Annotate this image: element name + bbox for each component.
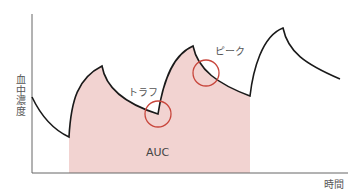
auc-label: AUC [146,147,169,158]
y-axis-label: 血中濃度 [15,75,27,117]
x-axis-label: 時間 [324,180,344,190]
peak-label: ピーク [215,47,245,57]
pk-chart [0,0,360,196]
trough-label: トラフ [128,88,158,98]
